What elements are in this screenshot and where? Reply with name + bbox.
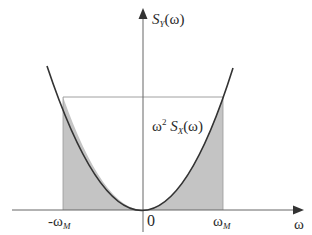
x-label-text: ω — [294, 216, 304, 232]
y-label-s: S — [152, 11, 160, 27]
y-label-suffix: (ω) — [165, 11, 185, 27]
curve-label-suffix: (ω) — [183, 118, 203, 134]
tick-label-zero: 0 — [147, 213, 155, 229]
x-axis-arrow-icon — [293, 206, 304, 215]
tick-label-neg-omega-m: -ωM — [48, 214, 70, 231]
shaded-area-right — [143, 97, 223, 210]
tick-neg-sub: M — [63, 221, 71, 231]
curve-label: ω2 SX(ω) — [152, 118, 203, 136]
curve-label-omega: ω — [152, 118, 162, 134]
y-axis-arrow-icon — [139, 8, 148, 19]
y-axis-label: SY(ω) — [152, 12, 184, 29]
tick-pos-sub: M — [223, 221, 231, 231]
tick-pos-main: ω — [213, 213, 223, 229]
tick-label-pos-omega-m: ωM — [213, 214, 230, 231]
tick-zero-text: 0 — [147, 212, 155, 229]
curve-label-s: S — [170, 118, 178, 134]
tick-neg-main: -ω — [48, 213, 63, 229]
curve-label-power: 2 — [162, 117, 167, 127]
x-axis-label: ω — [294, 217, 304, 232]
shaded-area-left — [63, 97, 143, 210]
